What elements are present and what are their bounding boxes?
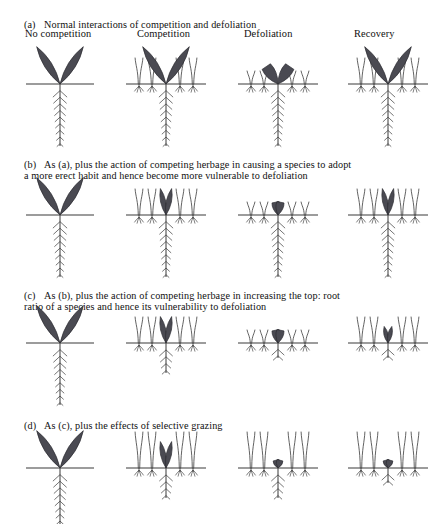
row-caption-a: (a)Normal interactions of competition an… xyxy=(24,7,424,30)
column-header-competition: Competition xyxy=(137,28,190,39)
panel-b-competition xyxy=(118,175,214,271)
panel-a-competition xyxy=(118,44,214,140)
panel-b-recovery xyxy=(340,175,436,271)
panel-c-no-competition xyxy=(12,303,108,399)
panel-a-recovery xyxy=(340,44,436,140)
panel-b-no-competition xyxy=(12,175,108,271)
panel-a-defoliation xyxy=(230,44,326,140)
column-header-recovery: Recovery xyxy=(354,28,395,39)
panel-d-defoliation xyxy=(230,428,326,524)
panel-b-defoliation xyxy=(230,175,326,271)
panel-c-defoliation xyxy=(230,303,326,399)
panel-c-competition xyxy=(118,303,214,399)
panel-d-no-competition xyxy=(12,428,108,524)
row-tag-c: (c) xyxy=(24,290,44,302)
panel-c-recovery xyxy=(340,303,436,399)
panel-d-competition xyxy=(118,428,214,524)
column-header-defoliation: Defoliation xyxy=(244,28,292,39)
panel-d-recovery xyxy=(340,428,436,524)
column-header-no-competition: No competition xyxy=(25,28,91,39)
panel-a-no-competition xyxy=(12,44,108,140)
row-tag-b: (b) xyxy=(24,159,44,171)
